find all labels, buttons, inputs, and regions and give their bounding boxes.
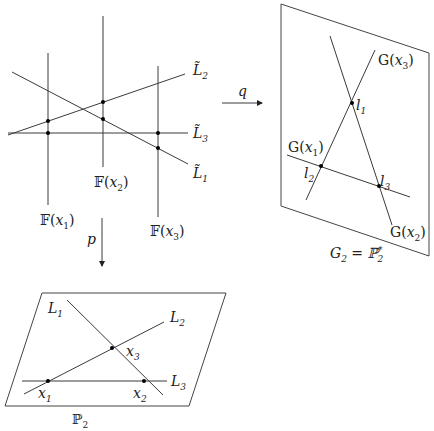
dual-plane-outline <box>281 4 429 256</box>
label-x1: x1 <box>38 385 52 404</box>
label-F-x2: 𝔽(x2) <box>94 174 129 193</box>
label-q: q <box>238 83 247 99</box>
point <box>156 131 160 135</box>
label-F-x3: 𝔽(x3) <box>150 223 185 242</box>
line-L1-tilde <box>12 72 188 164</box>
map-p-arrow: p <box>87 218 102 266</box>
point-x3 <box>110 346 114 350</box>
point <box>101 117 105 121</box>
projective-duality-diagram: L̃2 L̃3 L̃1 𝔽(x2) 𝔽(x1) 𝔽(x3) q p l1 l2 … <box>0 0 434 431</box>
label-l1: l1 <box>356 97 366 116</box>
incidence-variety-panel: L̃2 L̃3 L̃1 𝔽(x2) 𝔽(x1) 𝔽(x3) <box>8 16 208 242</box>
map-q-arrow: q <box>222 83 262 103</box>
label-l2: l2 <box>304 165 314 184</box>
label-x2: x2 <box>133 385 147 404</box>
line-L2 <box>24 322 164 394</box>
point <box>156 146 160 150</box>
point-l1 <box>350 101 354 105</box>
caption-P2: ℙ2 <box>72 411 88 430</box>
projective-plane-panel: L1 L2 L3 x1 x2 x3 ℙ2 <box>5 293 226 430</box>
point-l2 <box>319 164 323 168</box>
point <box>101 100 105 104</box>
label-L1-tilde: L̃1 <box>192 164 208 184</box>
label-L3-tilde: L̃3 <box>192 124 208 144</box>
label-p: p <box>87 231 96 247</box>
caption-G2-equals-P2-dual: G2 = ℙ*2 <box>330 245 384 264</box>
label-G-x1: G(x1) <box>288 139 324 158</box>
dual-plane-panel: l1 l2 l3 G(x3) G(x1) G(x2) G2 = ℙ*2 <box>281 4 429 264</box>
label-L2: L2 <box>169 309 185 328</box>
label-L3: L3 <box>170 373 186 392</box>
label-G-x3: G(x3) <box>378 52 414 71</box>
point <box>46 119 50 123</box>
label-l3: l3 <box>380 173 390 192</box>
label-x3: x3 <box>126 343 140 362</box>
point-x2 <box>142 379 146 383</box>
point-x1 <box>46 379 50 383</box>
line-G-x3 <box>306 50 375 200</box>
label-L2-tilde: L̃2 <box>192 61 208 81</box>
label-F-x1: 𝔽(x1) <box>40 212 75 231</box>
point <box>46 131 50 135</box>
label-L1: L1 <box>47 300 63 319</box>
label-G-x2: G(x2) <box>390 224 426 243</box>
